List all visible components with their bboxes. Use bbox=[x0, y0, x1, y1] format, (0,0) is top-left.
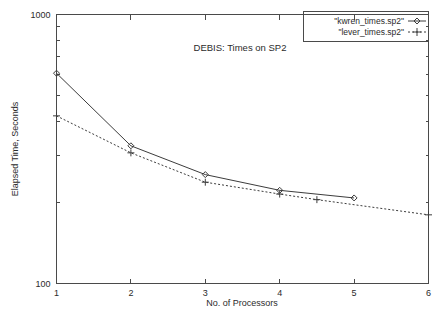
chart-legend: "kwren_times.sp2" "lever_times.sp2" bbox=[304, 12, 429, 42]
line-chart: 1001000 123456 No. of Processors Elapsed… bbox=[0, 0, 440, 317]
legend-sample-kwren bbox=[408, 18, 426, 24]
y-tick-label: 100 bbox=[35, 279, 50, 289]
plus-marker-icon bbox=[313, 196, 320, 203]
legend-item-label-kwren: "kwren_times.sp2" bbox=[334, 16, 404, 26]
plus-marker-icon bbox=[276, 191, 283, 198]
legend-item-label-lever: "lever_times.sp2" bbox=[338, 27, 404, 37]
plus-marker-icon bbox=[202, 179, 209, 186]
series-layer bbox=[53, 70, 432, 218]
x-tick-label: 1 bbox=[54, 288, 59, 298]
x-tick-label: 2 bbox=[128, 288, 133, 298]
x-tick-label: 4 bbox=[277, 288, 282, 298]
y-axis-ticks bbox=[57, 15, 429, 284]
legend-sample-lever bbox=[408, 28, 426, 36]
x-tick-label: 6 bbox=[426, 288, 431, 298]
y-tick-label: 1000 bbox=[30, 10, 50, 20]
x-axis-title: No. of Processors bbox=[206, 298, 278, 308]
plus-marker-icon bbox=[53, 112, 60, 119]
plus-marker-icon bbox=[127, 149, 134, 156]
y-axis-tick-labels: 1001000 bbox=[30, 10, 50, 289]
y-axis-title: Elapsed Time, Seconds bbox=[10, 101, 20, 196]
x-tick-label: 3 bbox=[203, 288, 208, 298]
chart-container: 1001000 123456 No. of Processors Elapsed… bbox=[0, 0, 440, 317]
x-axis-tick-labels: 123456 bbox=[54, 288, 431, 298]
plus-marker-icon bbox=[425, 211, 432, 218]
x-axis-ticks bbox=[57, 15, 429, 284]
plot-frame bbox=[57, 15, 429, 284]
chart-title: DEBIS: Times on SP2 bbox=[194, 42, 287, 53]
series-line-1 bbox=[57, 116, 429, 215]
x-tick-label: 5 bbox=[352, 288, 357, 298]
